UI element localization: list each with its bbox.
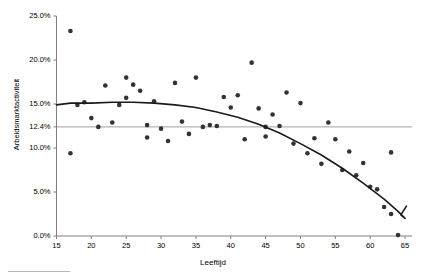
data-point [270,112,275,117]
scatter-plot-canvas [0,0,426,279]
data-point [228,105,233,110]
data-point [117,103,122,108]
data-point [312,136,317,141]
y-tick-label: 12.4% [9,122,51,131]
x-tick-label: 50 [285,241,315,250]
data-point [284,90,289,95]
data-point [396,233,401,238]
data-point [347,149,352,154]
data-point [249,60,254,65]
x-tick-label: 65 [390,241,420,250]
x-axis-title: Leeftijd [0,258,426,267]
x-tick-label: 55 [320,241,350,250]
data-point [173,81,178,86]
data-point [319,162,324,167]
data-point [235,93,240,98]
data-point [326,120,331,125]
data-point [298,101,303,106]
data-point [201,125,206,130]
data-point [333,137,338,142]
data-point [215,124,220,129]
data-point [242,137,247,142]
data-point [68,151,73,156]
x-tick-label: 35 [181,241,211,250]
trend-line [57,102,407,218]
data-point [187,132,192,137]
y-axis-title: Arbeidsmarktactiviteit [12,55,21,175]
data-point [382,205,387,210]
data-point [124,96,129,101]
data-point [145,123,150,128]
data-point [263,134,268,139]
data-point [131,82,136,87]
data-point [145,135,150,140]
y-tick-label: 10.0% [9,143,51,152]
data-point [305,151,310,156]
data-point [110,120,115,125]
y-tick-label: 25.0% [9,11,51,20]
data-point [389,212,394,217]
y-tick-label: 15.0% [9,99,51,108]
data-point [68,29,73,34]
data-point [389,150,394,155]
x-tick-label: 20 [76,241,106,250]
data-point [180,119,185,124]
chart-container: Arbeidsmarktactiviteit Leeftijd 0.0%5.0%… [0,0,426,279]
data-point [375,187,380,192]
x-tick-label: 40 [216,241,246,250]
data-point [138,89,143,94]
data-point [221,95,226,100]
footer-rule [8,271,70,272]
data-point [194,75,199,80]
data-point [361,161,366,166]
x-tick-label: 45 [251,241,281,250]
x-tick-label: 60 [355,241,385,250]
x-tick-label: 30 [146,241,176,250]
data-point [208,123,213,128]
data-point [277,124,282,129]
y-tick-label: 0.0% [9,231,51,240]
x-tick-label: 15 [42,241,72,250]
y-tick-label: 20.0% [9,55,51,64]
data-point [166,139,171,144]
x-tick-label: 25 [111,241,141,250]
y-tick-label: 5.0% [9,187,51,196]
data-point [96,125,101,130]
data-point [256,106,261,111]
data-point [159,126,164,131]
data-point [103,83,108,88]
data-point [124,75,129,80]
data-point [89,116,94,121]
data-point [291,141,296,146]
